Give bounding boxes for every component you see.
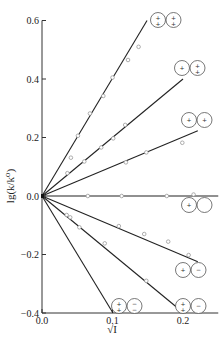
axis-ticks: 0.60.40.20.0−0.2−0.40.00.10.2 <box>21 15 189 326</box>
data-point <box>123 123 127 127</box>
data-point <box>86 194 90 198</box>
data-point <box>120 194 124 198</box>
data-point <box>66 171 70 175</box>
ion-pair-label: + <box>182 198 213 213</box>
svg-text:−: − <box>132 306 137 313</box>
data-point <box>180 141 184 145</box>
ion-pair-label: +++ <box>175 61 206 76</box>
ion-pair-label: ++ <box>182 113 213 128</box>
data-point <box>76 134 80 138</box>
svg-text:+: + <box>186 116 191 123</box>
origin-marker <box>41 194 44 198</box>
svg-text:+: + <box>179 64 184 71</box>
y-tick-label: −0.2 <box>21 249 39 260</box>
y-tick-label: 0.0 <box>27 191 40 202</box>
svg-text:+: + <box>171 20 176 27</box>
svg-text:+: + <box>202 116 207 123</box>
data-point <box>88 112 92 116</box>
svg-text:+: + <box>155 20 160 27</box>
data-point <box>102 94 106 98</box>
svg-text:−: − <box>196 302 201 309</box>
data-point <box>145 151 149 155</box>
svg-text:+: + <box>186 201 191 208</box>
svg-text:−: − <box>196 266 201 273</box>
y-tick-label: 0.2 <box>27 132 40 143</box>
fit-line <box>42 131 198 196</box>
data-point <box>187 253 191 257</box>
y-axis-title: lg(k/k⁰) <box>4 168 17 203</box>
data-point <box>103 242 107 246</box>
ion-pair-label: ++−− <box>112 299 143 314</box>
data-point <box>166 240 170 244</box>
data-point <box>99 146 103 150</box>
data-point <box>137 45 141 49</box>
fit-line <box>42 196 198 262</box>
ion-pair-label: ++++ <box>151 13 182 28</box>
svg-text:+: + <box>195 68 200 75</box>
data-point <box>145 279 149 283</box>
ion-circle-icon <box>197 198 212 213</box>
x-tick-label: 0.2 <box>177 315 190 326</box>
data-point <box>83 160 87 164</box>
y-tick-label: 0.6 <box>27 15 40 26</box>
y-tick-label: 0.4 <box>27 74 40 85</box>
fit-line <box>42 21 147 197</box>
data-point <box>165 194 169 198</box>
svg-text:+: + <box>180 266 185 273</box>
svg-text:+: + <box>180 306 185 313</box>
ion-pair-label: +− <box>176 263 207 278</box>
data-point <box>192 193 196 197</box>
data-point <box>124 161 128 165</box>
data-point <box>111 76 115 80</box>
data-point <box>142 232 146 236</box>
fit-line <box>42 196 113 313</box>
data-point <box>69 156 73 160</box>
chart: 0.60.40.20.0−0.2−0.40.00.10.2 ++++++++++… <box>0 0 224 344</box>
data-point <box>68 216 72 220</box>
data-point <box>78 225 82 229</box>
svg-text:+: + <box>116 306 121 313</box>
data-point <box>126 58 130 62</box>
x-tick-label: 0.0 <box>36 315 49 326</box>
ion-pair-label: ++− <box>176 299 207 314</box>
x-axis-title: √I <box>107 323 117 335</box>
fit-line <box>42 196 184 313</box>
data-point <box>111 137 115 141</box>
data-point <box>117 224 121 228</box>
data-point <box>65 213 69 217</box>
